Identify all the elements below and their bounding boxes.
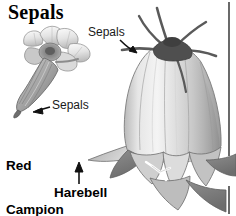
page-title: Sepals [8,2,64,24]
label-red-campion-line-1: Red [6,159,64,174]
label-red-campion: Red Campion [6,130,64,216]
label-harebell: Harebell [54,186,107,201]
figure-sepals: Sepals Sepals Sepals Red Campion Harebel… [0,0,236,216]
label-red-campion-line-2: Campion [6,203,64,216]
label-sepals-red-campion: Sepals [52,99,89,112]
label-sepals-harebell: Sepals [88,26,125,39]
